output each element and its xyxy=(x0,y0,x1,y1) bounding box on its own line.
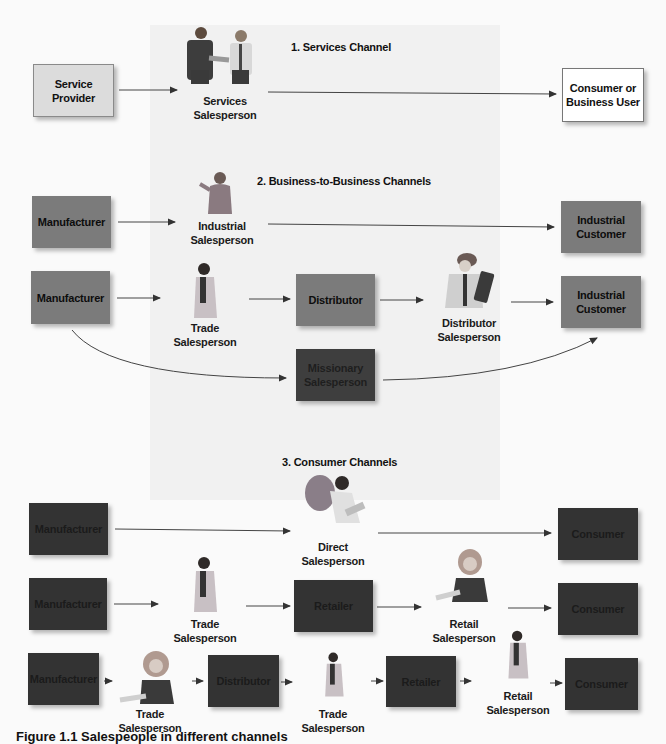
label-line: Direct xyxy=(293,540,373,554)
trade-salesperson-icon xyxy=(190,556,220,614)
consumer-business-user-box: Consumer orBusiness User xyxy=(562,68,644,122)
distributor-salesperson-label: DistributorSalesperson xyxy=(430,316,508,344)
consumer-manufacturer-box-1: Manufacturer xyxy=(29,503,108,555)
consumer-box-2: Consumer xyxy=(558,583,638,635)
box-label: Retailer xyxy=(314,599,353,613)
retail-salesperson-label-2: RetailSalesperson xyxy=(478,689,558,717)
box-label: Consumer xyxy=(572,527,625,541)
label-line: Salesperson xyxy=(180,108,270,122)
industrial-customer-box-1: IndustrialCustomer xyxy=(561,201,641,253)
missionary-salesperson-box: MissionarySalesperson xyxy=(296,349,375,401)
section-heading-services: 1. Services Channel xyxy=(291,41,391,53)
consumer-distributor-box: Distributor xyxy=(208,655,279,707)
label-line: Trade xyxy=(170,321,240,335)
box-label: Manufacturer xyxy=(38,215,105,229)
industrial-salesperson-icon xyxy=(196,170,242,216)
section-heading-consumer: 3. Consumer Channels xyxy=(282,456,397,468)
box-label: Consumer xyxy=(575,677,628,691)
services-salesperson-label: ServicesSalesperson xyxy=(180,94,270,122)
label-line: Salesperson xyxy=(430,330,508,344)
box-label: Industrial xyxy=(576,288,626,302)
box-label: Consumer or xyxy=(566,81,640,95)
box-label: Manufacturer xyxy=(37,291,104,305)
label-line: Salesperson xyxy=(424,631,504,645)
trade-salesperson-female-icon xyxy=(118,650,180,704)
box-label: Retailer xyxy=(402,675,441,689)
label-line: Salesperson xyxy=(296,721,370,735)
trade-salesperson-icon xyxy=(322,650,346,700)
label-line: Salesperson xyxy=(170,335,240,349)
consumer-box-3: Consumer xyxy=(565,658,638,710)
figure-caption: Figure 1.1 Salespeople in different chan… xyxy=(16,729,288,744)
label-line: Salesperson xyxy=(170,631,240,645)
box-label: Consumer xyxy=(572,602,625,616)
retailer-box-2: Retailer xyxy=(386,656,456,707)
b2b-distributor-box: Distributor xyxy=(296,274,375,326)
box-label: Industrial xyxy=(576,213,626,227)
distributor-salesperson-icon xyxy=(441,250,501,308)
handshake-people-icon xyxy=(183,24,265,88)
consumer-box-1: Consumer xyxy=(558,508,638,560)
box-label: Distributor xyxy=(216,674,270,688)
industrial-customer-box-2: IndustrialCustomer xyxy=(561,276,641,328)
b2b-manufacturer-box-2: Manufacturer xyxy=(31,271,110,324)
label-line: Trade xyxy=(296,707,370,721)
trade-salesperson-label-b2b: TradeSalesperson xyxy=(170,321,240,349)
direct-salesperson-label: DirectSalesperson xyxy=(293,540,373,568)
retailer-box-1: Retailer xyxy=(294,580,373,632)
box-label: Business User xyxy=(566,95,640,109)
box-label: Customer xyxy=(576,302,626,316)
label-line: Retail xyxy=(424,617,504,631)
industrial-salesperson-label: IndustrialSalesperson xyxy=(184,219,260,247)
box-label: Manufacturer xyxy=(30,672,97,686)
direct-salesperson-icon xyxy=(300,473,368,529)
label-line: Salesperson xyxy=(184,233,260,247)
label-line: Salesperson xyxy=(293,554,373,568)
label-line: Trade xyxy=(113,707,187,721)
label-line: Industrial xyxy=(184,219,260,233)
box-label: Salesperson xyxy=(304,375,367,389)
retail-salesperson-icon xyxy=(505,627,531,683)
consumer-manufacturer-box-3: Manufacturer xyxy=(28,653,99,705)
label-line: Retail xyxy=(478,689,558,703)
label-line: Trade xyxy=(170,617,240,631)
service-provider-box: ServiceProvider xyxy=(33,64,114,117)
box-label: Manufacturer xyxy=(35,522,102,536)
retail-salesperson-label-1: RetailSalesperson xyxy=(424,617,504,645)
retail-salesperson-icon xyxy=(432,546,492,602)
section-heading-b2b: 2. Business-to-Business Channels xyxy=(257,175,431,187)
box-label: Provider xyxy=(52,91,95,105)
label-line: Salesperson xyxy=(478,703,558,717)
label-line: Services xyxy=(180,94,270,108)
box-label: Manufacturer xyxy=(34,597,101,611)
b2b-manufacturer-box-1: Manufacturer xyxy=(32,196,111,248)
box-label: Customer xyxy=(576,227,626,241)
consumer-manufacturer-box-2: Manufacturer xyxy=(29,578,107,630)
trade-salesperson-icon xyxy=(190,262,220,320)
label-line: Distributor xyxy=(430,316,508,330)
trade-salesperson-label-consumer-3: TradeSalesperson xyxy=(296,707,370,735)
trade-salesperson-label-consumer-1: TradeSalesperson xyxy=(170,617,240,645)
box-label: Missionary xyxy=(304,361,367,375)
box-label: Service xyxy=(52,77,95,91)
box-label: Distributor xyxy=(308,293,362,307)
